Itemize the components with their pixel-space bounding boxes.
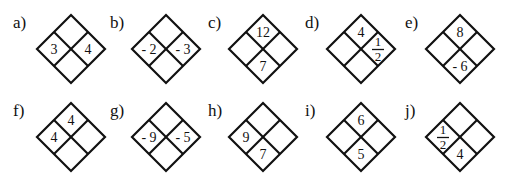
cell-value-top: 12 (256, 25, 270, 40)
problem-label: c) (208, 13, 221, 32)
problem-label: g) (110, 101, 124, 120)
cell-value-top: 6 (358, 113, 365, 128)
denominator: 2 (440, 137, 447, 152)
problem-label: h) (208, 101, 222, 120)
cell-value-right: 4 (85, 42, 92, 57)
fraction-right: 12 (372, 34, 384, 64)
numerator: 1 (375, 34, 382, 49)
cell-value-bottom: 5 (358, 147, 365, 162)
cell-value-top: 4 (358, 25, 365, 40)
diamond-problem: f)44 (13, 101, 105, 171)
cell-value-right: - 5 (175, 130, 190, 145)
diamond-problem: a)34 (13, 13, 105, 83)
cell-value-bottom: - 6 (452, 59, 467, 74)
problem-label: a) (13, 13, 26, 32)
diamond-problem: j)412 (404, 101, 494, 171)
numerator: 1 (440, 122, 447, 137)
problem-label: f) (13, 101, 24, 120)
diamond-problem: g)- 9- 5 (110, 101, 200, 171)
diamond-problem: e)8- 6 (405, 13, 494, 83)
cell-value-bottom: 4 (457, 147, 464, 162)
diamond-puzzle-sheet: a)34b)- 2- 3c)127d)412e)8- 6f)44g)- 9- 5… (0, 0, 506, 181)
problem-label: i) (305, 101, 315, 120)
problem-label: j) (404, 101, 415, 120)
cell-value-left: 4 (51, 130, 58, 145)
cell-value-left: - 2 (141, 42, 156, 57)
cell-value-left: 9 (243, 130, 250, 145)
cell-value-left: - 9 (141, 130, 156, 145)
diamond-problem: d)412 (305, 13, 395, 83)
cell-value-right: - 3 (175, 42, 190, 57)
denominator: 2 (375, 49, 382, 64)
cell-value-bottom: 7 (260, 59, 267, 74)
problem-label: d) (305, 13, 319, 32)
diamond-problem: i)65 (305, 101, 395, 171)
diamond-problem: h)79 (208, 101, 297, 171)
cell-value-bottom: 7 (260, 147, 267, 162)
fraction-left: 12 (437, 122, 449, 152)
cell-value-top: 8 (457, 25, 464, 40)
problem-label: b) (110, 13, 124, 32)
diamond-problem: b)- 2- 3 (110, 13, 200, 83)
cell-value-top: 4 (68, 113, 75, 128)
cell-value-left: 3 (51, 42, 58, 57)
problem-label: e) (405, 13, 418, 32)
diamond-problem: c)127 (208, 13, 297, 83)
